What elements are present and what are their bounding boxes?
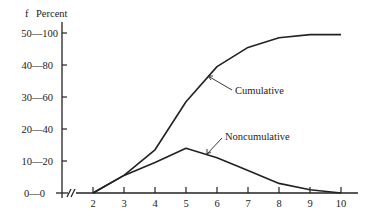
- y-tick-label-0-0: 0—0: [24, 188, 45, 199]
- noncumulative-arrow-icon: [207, 138, 222, 154]
- axis-break-icon: [67, 189, 75, 197]
- x-tick-label-2: 2: [90, 198, 95, 209]
- x-tick-label-9: 9: [307, 198, 312, 209]
- x-tick-label-4: 4: [152, 198, 158, 209]
- frequency-polygon-chart: f Percent 50—100 40—80 30—60 20—40 10—20…: [0, 0, 377, 219]
- y-tick-label-20-40: 20—40: [22, 124, 54, 135]
- y-axis-percent-label: Percent: [36, 8, 68, 19]
- x-tick-label-7: 7: [245, 198, 250, 209]
- y-axis-f-label: f: [25, 8, 29, 19]
- cumulative-line: [93, 35, 341, 193]
- x-tick-label-10: 10: [336, 198, 347, 209]
- x-tick-label-6: 6: [214, 198, 219, 209]
- cumulative-arrow-icon: [208, 76, 232, 90]
- noncumulative-label: Noncumulative: [225, 131, 290, 142]
- cumulative-label: Cumulative: [235, 85, 284, 96]
- x-tick-label-5: 5: [183, 198, 188, 209]
- y-ticks: [62, 33, 67, 161]
- y-tick-label-30-60: 30—60: [22, 92, 54, 103]
- x-tick-label-8: 8: [276, 198, 281, 209]
- x-tick-label-3: 3: [121, 198, 126, 209]
- y-tick-label-40-80: 40—80: [22, 60, 54, 71]
- y-tick-label-10-20: 10—20: [22, 156, 54, 167]
- y-tick-label-50-100: 50—100: [21, 28, 58, 39]
